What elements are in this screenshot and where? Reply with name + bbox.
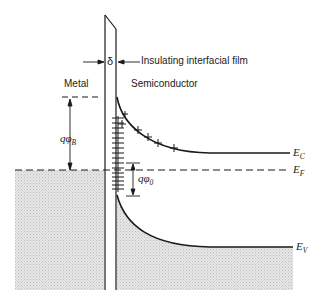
- valence-band-label: EV: [296, 240, 307, 255]
- space-charge-plus-signs: [118, 111, 178, 152]
- neutral-level-label: qφ0: [138, 172, 153, 187]
- delta-label: δ: [107, 55, 113, 67]
- conduction-band-curve: [117, 97, 290, 153]
- fermi-level-label: EF: [293, 163, 304, 178]
- band-diagram-graphic: [0, 0, 315, 300]
- energy-band-diagram: δ Insulating interfacial film Metal Semi…: [0, 0, 315, 300]
- metal-label: Metal: [64, 78, 88, 89]
- metal-filled-region: [15, 170, 104, 290]
- insulating-film-label: Insulating interfacial film: [141, 55, 248, 66]
- conduction-band-label: EC: [293, 146, 305, 161]
- barrier-height-label: qφB: [60, 132, 76, 147]
- semiconductor-label: Semiconductor: [131, 78, 198, 89]
- valence-band-filled-region: [117, 195, 293, 290]
